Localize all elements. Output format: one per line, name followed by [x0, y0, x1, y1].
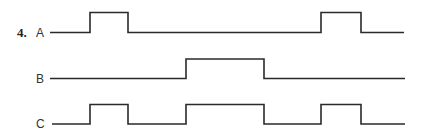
waveform-b [50, 59, 405, 79]
waveform-c [52, 105, 405, 125]
timing-diagram: 4. A B C [0, 0, 428, 132]
problem-number: 4. [17, 25, 27, 40]
waveform-a [50, 13, 404, 33]
signal-label-a: A [36, 26, 44, 40]
signal-label-b: B [36, 72, 44, 86]
signal-label-c: C [36, 117, 45, 131]
